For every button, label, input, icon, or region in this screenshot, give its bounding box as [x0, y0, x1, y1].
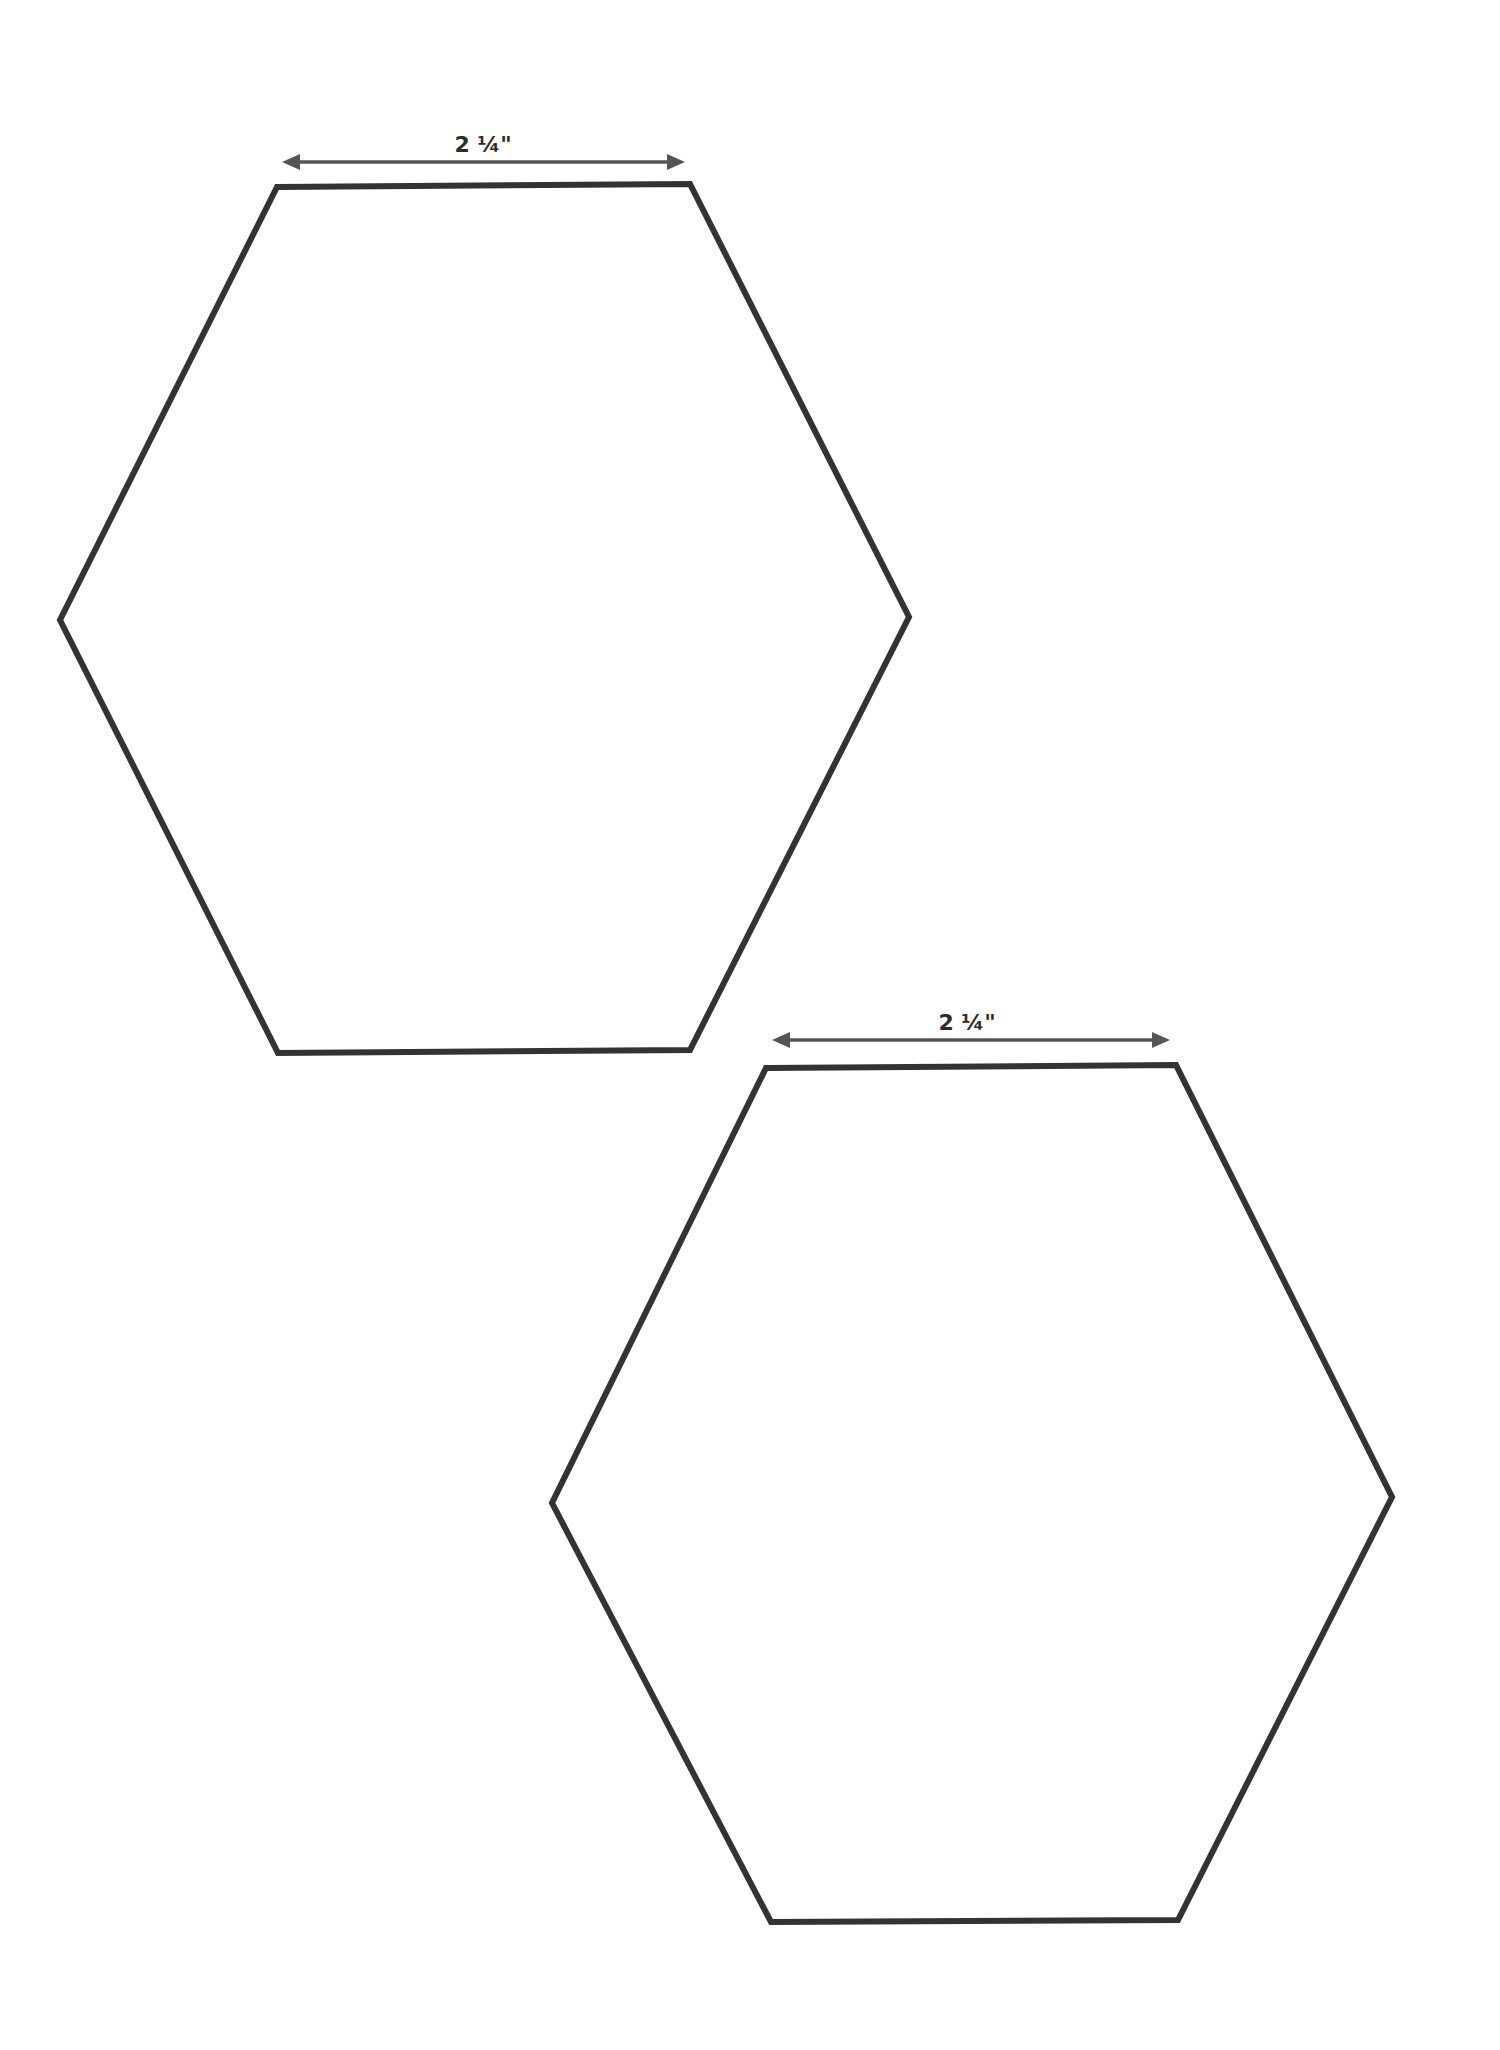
arrow-left-icon: [772, 1032, 790, 1048]
arrow-right-icon: [667, 154, 685, 170]
arrow-right-icon: [1152, 1032, 1170, 1048]
hexagon-1: [60, 184, 909, 1053]
hexagon-2: [552, 1065, 1392, 1922]
template-canvas: 2 ¼" 2 ¼": [0, 0, 1500, 2050]
dimension-label-1: 2 ¼": [454, 132, 511, 157]
arrow-left-icon: [282, 154, 300, 170]
hexagon-2-group: 2 ¼": [552, 1010, 1392, 1922]
dimension-label-2: 2 ¼": [938, 1010, 995, 1035]
hexagon-1-group: 2 ¼": [60, 132, 909, 1053]
